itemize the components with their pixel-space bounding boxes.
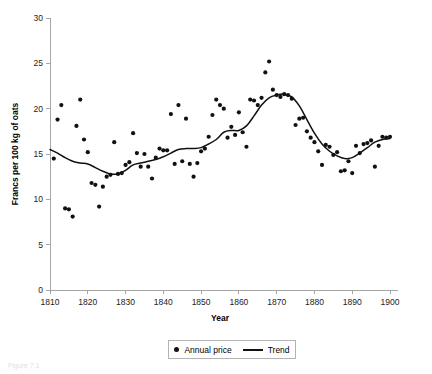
data-point bbox=[305, 129, 309, 133]
data-point bbox=[71, 214, 75, 218]
data-point bbox=[263, 70, 267, 74]
x-tick-label: 1870 bbox=[267, 297, 286, 307]
x-tick-label: 1860 bbox=[229, 297, 248, 307]
data-point bbox=[343, 168, 347, 172]
x-tick-label: 1850 bbox=[192, 297, 211, 307]
data-point bbox=[176, 103, 180, 107]
data-point bbox=[169, 112, 173, 116]
x-axis-title: Year bbox=[211, 313, 230, 323]
data-point bbox=[157, 146, 161, 150]
data-point bbox=[267, 59, 271, 63]
data-point bbox=[293, 123, 297, 127]
data-point bbox=[225, 136, 229, 140]
data-point bbox=[335, 150, 339, 154]
y-tick-label: 15 bbox=[34, 149, 44, 159]
data-point bbox=[237, 110, 241, 114]
data-point bbox=[161, 148, 165, 152]
x-tick-label: 1900 bbox=[381, 297, 400, 307]
data-point bbox=[271, 88, 275, 92]
data-point bbox=[327, 145, 331, 149]
data-point bbox=[93, 183, 97, 187]
chart-legend: Annual price Trend bbox=[168, 340, 296, 359]
chart-figure: 0510152025301810182018301840185018601870… bbox=[0, 0, 432, 374]
legend-label-trend: Trend bbox=[268, 345, 290, 355]
data-point bbox=[256, 103, 260, 107]
legend-entry-trend: Trend bbox=[243, 345, 290, 355]
data-point bbox=[365, 141, 369, 145]
data-point bbox=[195, 161, 199, 165]
data-point bbox=[173, 162, 177, 166]
data-point bbox=[346, 159, 350, 163]
data-point bbox=[350, 171, 354, 175]
y-tick-label: 0 bbox=[38, 285, 43, 295]
data-point bbox=[101, 185, 105, 189]
data-point bbox=[339, 169, 343, 173]
dot-marker-icon bbox=[174, 347, 179, 352]
data-point bbox=[233, 133, 237, 137]
data-point bbox=[377, 144, 381, 148]
data-point bbox=[320, 163, 324, 167]
scatter-series-annual-price bbox=[52, 59, 392, 218]
y-axis-title: Francs per 100 kg of oats bbox=[10, 102, 20, 205]
data-point bbox=[127, 160, 131, 164]
data-point bbox=[180, 159, 184, 163]
data-point bbox=[248, 98, 252, 102]
data-point bbox=[218, 103, 222, 107]
data-point bbox=[199, 149, 203, 153]
data-point bbox=[89, 181, 93, 185]
figure-caption: Figure 7.1 bbox=[8, 362, 40, 369]
data-point bbox=[131, 131, 135, 135]
data-point bbox=[59, 103, 63, 107]
data-point bbox=[165, 148, 169, 152]
data-point bbox=[297, 117, 301, 121]
data-point bbox=[63, 206, 67, 210]
data-point bbox=[123, 163, 127, 167]
data-point bbox=[316, 149, 320, 153]
data-point bbox=[222, 107, 226, 111]
data-point bbox=[146, 165, 150, 169]
data-point bbox=[229, 125, 233, 129]
data-point bbox=[139, 165, 143, 169]
data-point bbox=[207, 135, 211, 139]
data-point bbox=[86, 150, 90, 154]
oat-price-chart: 0510152025301810182018301840185018601870… bbox=[0, 0, 432, 374]
data-point bbox=[278, 95, 282, 99]
data-point bbox=[354, 144, 358, 148]
y-tick-label: 25 bbox=[34, 58, 44, 68]
x-tick-label: 1840 bbox=[154, 297, 173, 307]
data-point bbox=[105, 175, 109, 179]
data-point bbox=[150, 176, 154, 180]
x-tick-label: 1820 bbox=[78, 297, 97, 307]
data-point bbox=[82, 137, 86, 141]
data-point bbox=[78, 98, 82, 102]
legend-entry-annual-price: Annual price bbox=[174, 345, 231, 355]
data-point bbox=[380, 135, 384, 139]
data-point bbox=[373, 165, 377, 169]
data-point bbox=[55, 117, 59, 121]
x-tick-label: 1810 bbox=[41, 297, 60, 307]
y-tick-label: 30 bbox=[34, 13, 44, 23]
data-point bbox=[135, 151, 139, 155]
data-point bbox=[244, 145, 248, 149]
data-point bbox=[241, 130, 245, 134]
data-point bbox=[191, 175, 195, 179]
y-tick-label: 5 bbox=[38, 240, 43, 250]
y-tick-label: 10 bbox=[34, 194, 44, 204]
data-point bbox=[259, 96, 263, 100]
data-point bbox=[188, 162, 192, 166]
data-point bbox=[112, 140, 116, 144]
data-point bbox=[184, 117, 188, 121]
data-point bbox=[309, 136, 313, 140]
data-point bbox=[312, 140, 316, 144]
x-tick-label: 1880 bbox=[305, 297, 324, 307]
x-tick-label: 1830 bbox=[116, 297, 135, 307]
legend-label-annual-price: Annual price bbox=[184, 345, 231, 355]
data-point bbox=[252, 98, 256, 102]
y-tick-label: 20 bbox=[34, 104, 44, 114]
data-point bbox=[214, 98, 218, 102]
data-point bbox=[369, 138, 373, 142]
line-marker-icon bbox=[243, 349, 263, 351]
data-point bbox=[74, 124, 78, 128]
data-point bbox=[97, 204, 101, 208]
x-tick-label: 1890 bbox=[343, 297, 362, 307]
